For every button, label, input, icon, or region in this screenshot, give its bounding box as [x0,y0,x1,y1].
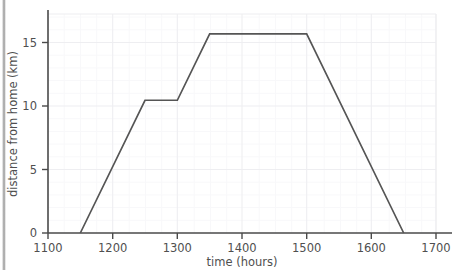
x-tick-label-1600: 1600 [357,241,386,255]
y-axis-ticks [42,43,48,234]
chart-figure: 0 5 10 15 1100 1200 1300 1400 1500 1600 … [0,0,463,270]
y-tick-label-5: 5 [30,163,37,177]
x-axis-ticks [48,233,436,239]
y-axis-title: distance from home (km) [6,51,20,197]
x-tick-label-1100: 1100 [33,241,62,255]
x-tick-label-1500: 1500 [292,241,321,255]
x-tick-label-1400: 1400 [227,241,256,255]
x-tick-label-1700: 1700 [421,241,450,255]
x-tick-label-1300: 1300 [163,241,192,255]
line-chart: 0 5 10 15 1100 1200 1300 1400 1500 1600 … [0,0,463,270]
y-tick-label-10: 10 [22,99,37,113]
x-axis-title: time (hours) [207,255,278,269]
y-tick-label-15: 15 [22,36,37,50]
x-tick-label-1200: 1200 [98,241,127,255]
y-tick-label-0: 0 [30,226,37,240]
